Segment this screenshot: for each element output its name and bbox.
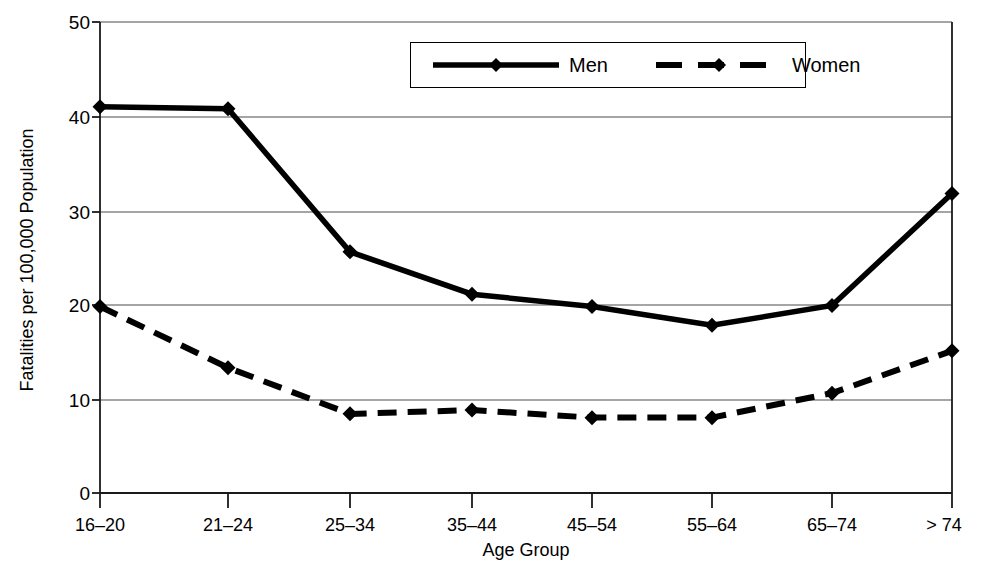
legend-entry-men: Men (431, 43, 608, 87)
x-tick-label-25-34: 25–34 (325, 516, 375, 534)
x-tick-label-over-74: > 74 (926, 516, 962, 534)
x-axis-title: Age Group (100, 540, 952, 561)
series-line-men (100, 107, 952, 325)
data-point-marker (825, 386, 840, 401)
legend-swatch-women-dashed-line-icon (654, 55, 784, 75)
x-tick-label-35-44: 35–44 (447, 516, 497, 534)
legend-entry-women: Women (654, 43, 861, 87)
legend-swatch-men-solid-line-icon (431, 55, 561, 75)
axes (100, 22, 952, 493)
legend: Men Women (410, 42, 806, 88)
data-point-marker (585, 410, 600, 425)
data-point-marker (705, 410, 720, 425)
data-point-marker (465, 287, 480, 302)
y-tick-marks (92, 22, 100, 493)
data-point-marker (465, 403, 480, 418)
x-tick-label-65-74: 65–74 (807, 516, 857, 534)
data-point-marker (945, 343, 960, 358)
x-tick-label-21-24: 21–24 (203, 516, 253, 534)
data-point-marker (343, 406, 358, 421)
data-point-marker (93, 99, 108, 114)
line-chart: Fatalities per 100,000 Population 50 40 … (0, 0, 987, 578)
data-point-marker (585, 299, 600, 314)
legend-label-men: Men (569, 54, 608, 77)
x-tick-label-45-54: 45–54 (567, 516, 617, 534)
x-tick-label-55-64: 55–64 (687, 516, 737, 534)
x-tick-label-16-20: 16–20 (75, 516, 125, 534)
data-point-marker (705, 318, 720, 333)
x-tick-marks (100, 493, 952, 508)
legend-label-women: Women (792, 54, 861, 77)
